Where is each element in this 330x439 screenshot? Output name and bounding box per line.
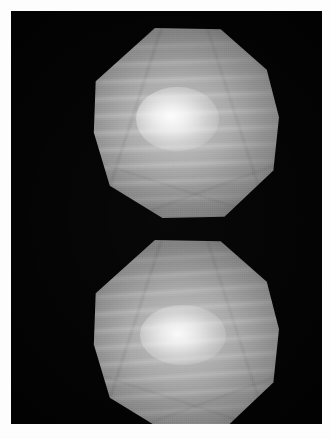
aperture-upper-interference-fringes — [91, 28, 279, 218]
aperture-upper-octagon — [91, 28, 279, 218]
image-panel — [11, 11, 322, 424]
aperture-lower-octagon — [91, 240, 279, 424]
aperture-lower-interference-fringes — [91, 240, 279, 424]
figure-alt-text: Two octagonal bright apertures stacked v… — [0, 0, 1, 1]
figure-root: Two octagonal bright apertures stacked v… — [0, 0, 330, 439]
